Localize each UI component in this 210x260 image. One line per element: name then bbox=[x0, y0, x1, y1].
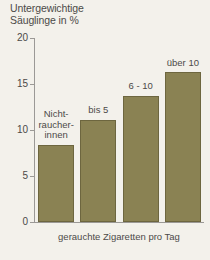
bar bbox=[123, 96, 159, 222]
bar bbox=[80, 120, 116, 222]
y-axis-tick-mark bbox=[30, 222, 35, 223]
y-axis-tick-mark bbox=[30, 176, 35, 177]
bar bbox=[38, 145, 74, 222]
bar-category-label: Nicht-raucher-innen bbox=[32, 109, 80, 141]
y-axis-tick-label: 5 bbox=[2, 171, 28, 181]
bar-category-label: bis 5 bbox=[74, 105, 122, 116]
bar-label-line: innen bbox=[32, 130, 80, 141]
y-axis-tick-label: 0 bbox=[2, 217, 28, 227]
y-axis-tick-label: 15 bbox=[2, 79, 28, 89]
bar-category-label: 6 - 10 bbox=[117, 81, 165, 92]
y-axis-tick-mark bbox=[30, 38, 35, 39]
bar-label-line: 6 - 10 bbox=[117, 81, 165, 92]
x-axis-line bbox=[34, 222, 204, 223]
y-axis-tick-label: 20 bbox=[2, 33, 28, 43]
bar-category-label: über 10 bbox=[159, 58, 207, 69]
x-axis-caption: gerauchte Zigaretten pro Tag bbox=[34, 231, 204, 242]
y-axis-tick-mark bbox=[30, 84, 35, 85]
bar-label-line: über 10 bbox=[159, 58, 207, 69]
y-axis-tick-label: 10 bbox=[2, 125, 28, 135]
bar-label-line: bis 5 bbox=[74, 105, 122, 116]
plot-area: 05101520 Nicht-raucher-innenbis 56 - 10ü… bbox=[0, 0, 210, 260]
bar-chart: Untergewichtige Säuglinge in % 05101520 … bbox=[0, 0, 210, 260]
bar bbox=[165, 72, 201, 222]
